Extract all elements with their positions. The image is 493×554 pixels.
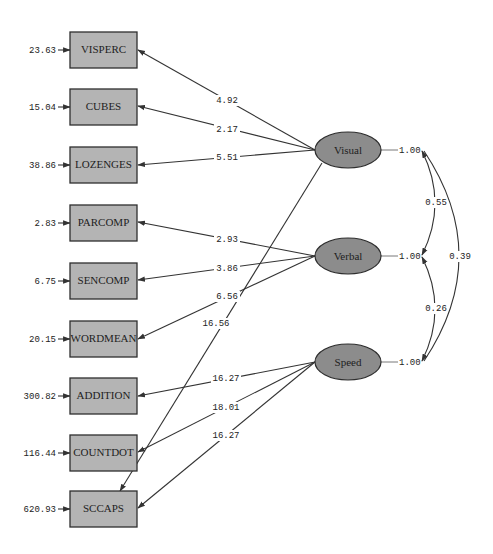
observed-variables: VISPERC CUBES LOZENGES PARCOMP SENCOMP W… (70, 32, 137, 527)
label-visperc: VISPERC (81, 43, 126, 55)
loading-speed-countdot: 18.01 (212, 403, 239, 413)
loading-speed-sccaps: 16.27 (212, 431, 239, 441)
loading-labels: 4.92 2.17 5.51 16.56 2.93 3.86 6.56 16.2… (201, 95, 241, 441)
loading-verbal-wordmean: 6.56 (216, 292, 238, 302)
cov-visual-verbal: 0.55 (425, 198, 447, 208)
error-wordmean: 20.15 (29, 335, 56, 345)
error-cubes: 15.04 (29, 103, 56, 113)
latent-speed[interactable]: Speed (315, 344, 381, 380)
observed-countdot[interactable]: COUNTDOT (70, 435, 137, 471)
observed-cubes[interactable]: CUBES (70, 89, 137, 125)
error-variances: 23.63 15.04 38.86 2.83 6.75 20.15 300.82… (24, 46, 56, 515)
latent-variances: 1.00 1.00 1.00 (381, 146, 421, 368)
variance-visual: 1.00 (399, 146, 421, 156)
error-arrows (58, 50, 70, 509)
error-sccaps: 620.93 (24, 505, 56, 515)
error-lozenges: 38.86 (29, 161, 56, 171)
observed-addition[interactable]: ADDITION (70, 378, 137, 414)
label-lozenges: LOZENGES (75, 158, 132, 170)
observed-sencomp[interactable]: SENCOMP (70, 263, 137, 299)
loading-visual-sccaps: 16.56 (202, 319, 229, 329)
latent-visual[interactable]: Visual (315, 132, 381, 168)
loading-speed-addition: 16.27 (212, 374, 239, 384)
error-addition: 300.82 (24, 392, 56, 402)
loading-verbal-parcomp: 2.93 (216, 235, 238, 245)
loading-visual-cubes: 2.17 (216, 125, 238, 135)
label-cubes: CUBES (86, 100, 121, 112)
loading-visual-visperc: 4.92 (216, 96, 238, 106)
latent-variables: Visual Verbal Speed (315, 132, 381, 380)
cov-verbal-speed: 0.26 (425, 304, 447, 314)
error-countdot: 116.44 (24, 449, 56, 459)
label-sccaps: SCCAPS (83, 502, 124, 514)
label-addition: ADDITION (77, 389, 131, 401)
variance-verbal: 1.00 (399, 252, 421, 262)
label-verbal: Verbal (334, 250, 363, 262)
label-countdot: COUNTDOT (73, 446, 134, 458)
path-diagram: VISPERC CUBES LOZENGES PARCOMP SENCOMP W… (0, 0, 493, 554)
label-visual: Visual (334, 144, 362, 156)
variance-speed: 1.00 (399, 358, 421, 368)
label-wordmean: WORDMEAN (71, 332, 137, 344)
error-visperc: 23.63 (29, 46, 56, 56)
loading-visual-lozenges: 5.51 (216, 153, 238, 163)
error-sencomp: 6.75 (34, 277, 56, 287)
observed-parcomp[interactable]: PARCOMP (70, 205, 137, 241)
observed-wordmean[interactable]: WORDMEAN (70, 321, 137, 357)
cov-visual-speed: 0.39 (449, 252, 471, 262)
loading-verbal-sencomp: 3.86 (216, 264, 238, 274)
latent-verbal[interactable]: Verbal (315, 238, 381, 274)
observed-lozenges[interactable]: LOZENGES (70, 147, 137, 183)
observed-visperc[interactable]: VISPERC (70, 32, 137, 68)
label-sencomp: SENCOMP (78, 274, 130, 286)
label-speed: Speed (335, 356, 362, 368)
label-parcomp: PARCOMP (78, 216, 130, 228)
error-parcomp: 2.83 (34, 219, 56, 229)
covariance-arcs: 0.55 0.26 0.39 (422, 151, 471, 361)
observed-sccaps[interactable]: SCCAPS (70, 491, 137, 527)
